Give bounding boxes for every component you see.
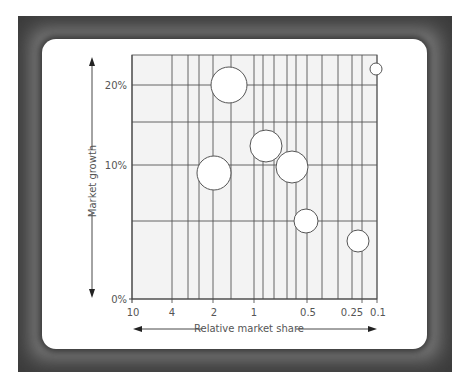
arrow-down-icon xyxy=(89,289,95,298)
plot-area xyxy=(132,55,377,299)
bubble xyxy=(347,230,369,252)
arrow-right-icon xyxy=(368,326,377,332)
x-tick-label: 0.1 xyxy=(370,307,386,318)
bubble xyxy=(250,130,282,162)
y-tick-label: 10% xyxy=(105,160,127,171)
x-tick-label: 2 xyxy=(211,307,217,318)
bubble xyxy=(197,156,231,190)
y-tick-label: 20% xyxy=(105,80,127,91)
bubble xyxy=(294,209,318,233)
arrow-up-icon xyxy=(89,57,95,66)
bcg-bubble-chart: 20% 10% 0% 10 4 2 1 0.5 0.25 0.1 Relativ… xyxy=(0,0,463,384)
x-tick-label: 4 xyxy=(169,307,175,318)
bubble xyxy=(211,67,247,103)
x-axis-label: Relative market share xyxy=(194,323,304,334)
x-tick-label: 1 xyxy=(251,307,257,318)
y-tick-label: 0% xyxy=(111,294,127,305)
x-tick-label: 10 xyxy=(127,307,140,318)
y-axis-label: Market growth xyxy=(87,145,98,217)
x-tick-label: 0.5 xyxy=(300,307,316,318)
arrow-left-icon xyxy=(133,326,142,332)
bubble xyxy=(276,151,308,183)
x-tick-label: 0.25 xyxy=(341,307,363,318)
bubble xyxy=(370,63,382,75)
